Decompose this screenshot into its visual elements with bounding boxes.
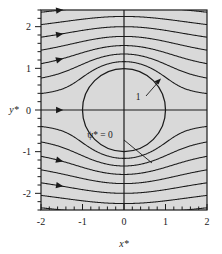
- y-tick-label: -1: [23, 146, 31, 157]
- y-tick-label: 2: [26, 21, 31, 32]
- plot-canvas: -2-1012 210-1-2 1 ψ* = 0 x* y*: [0, 0, 222, 254]
- x-tick-label: -2: [37, 216, 45, 227]
- y-axis-title: y*: [8, 104, 18, 115]
- x-tick-labels-group: -2-1012: [37, 216, 210, 227]
- x-tick-label: 1: [163, 216, 168, 227]
- x-axis-title: x*: [118, 238, 128, 249]
- x-tick-label: 0: [122, 216, 127, 227]
- stagnation-streamline-label: ψ* = 0: [87, 130, 113, 140]
- x-tick-label: 2: [205, 216, 210, 227]
- x-tick-label: -1: [78, 216, 86, 227]
- y-tick-labels-group: 210-1-2: [23, 21, 31, 199]
- y-tick-label: 1: [26, 63, 31, 74]
- y-tick-label: -2: [23, 188, 31, 199]
- y-tick-label: 0: [26, 105, 31, 116]
- cylinder-radius-label: 1: [136, 92, 141, 102]
- streamline-figure: -2-1012 210-1-2 1 ψ* = 0 x* y*: [0, 0, 222, 254]
